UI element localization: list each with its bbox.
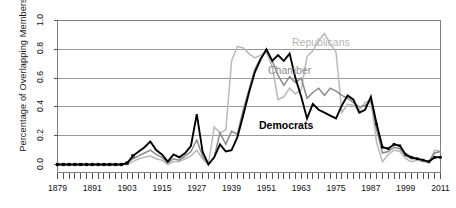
x-tick-label: 1879 [41, 183, 75, 193]
series-marker [97, 163, 100, 166]
series-marker [433, 156, 436, 159]
x-tick-label: 1963 [284, 183, 318, 193]
series-marker [126, 161, 129, 164]
series-marker [381, 146, 384, 149]
series-marker [62, 163, 65, 166]
series-label-democrats: Democrats [259, 119, 313, 131]
series-marker [404, 153, 407, 156]
series-marker [428, 160, 431, 163]
series-label-republicans: Republicans [292, 36, 350, 48]
series-marker [114, 163, 117, 166]
gridlines [58, 21, 441, 136]
series-marker [73, 163, 76, 166]
series-marker [439, 156, 442, 159]
chart-figure: Percentage of Overlapping Members 0.00.2… [0, 0, 456, 208]
y-tick-label: 0.0 [35, 154, 45, 174]
y-tick-label: 0.8 [35, 38, 45, 58]
series-marker [68, 163, 71, 166]
x-tick-label: 1891 [75, 183, 109, 193]
series-marker [410, 156, 413, 159]
series-marker [108, 163, 111, 166]
series-marker [393, 143, 396, 146]
y-tick-label: 0.2 [35, 125, 45, 145]
series-label-chamber: Chamber [268, 64, 311, 76]
x-tick-label: 1975 [319, 183, 353, 193]
plot-frame [58, 21, 441, 173]
series-marker [91, 163, 94, 166]
line-chart-plot [0, 0, 456, 208]
series-line-republicans [58, 33, 441, 164]
data-series [56, 33, 442, 166]
series-marker [375, 123, 378, 126]
series-marker [399, 144, 402, 147]
y-tick-label: 1.0 [35, 10, 45, 30]
series-marker [79, 163, 82, 166]
x-tick-label: 2011 [424, 183, 456, 193]
series-marker [102, 163, 105, 166]
series-marker [387, 147, 390, 150]
y-tick-label: 0.6 [35, 67, 45, 87]
series-marker [422, 159, 425, 162]
y-tick-label: 0.4 [35, 96, 45, 116]
x-tick-label: 1999 [389, 183, 423, 193]
series-marker [120, 163, 123, 166]
series-marker [131, 154, 134, 157]
x-tick-label: 1915 [145, 183, 179, 193]
x-tick-label: 1951 [249, 183, 283, 193]
x-tick-label: 1939 [215, 183, 249, 193]
x-tick-label: 1903 [110, 183, 144, 193]
series-marker [416, 157, 419, 160]
series-marker [56, 163, 59, 166]
x-tick-label: 1927 [180, 183, 214, 193]
x-tick-label: 1987 [354, 183, 388, 193]
series-marker [85, 163, 88, 166]
